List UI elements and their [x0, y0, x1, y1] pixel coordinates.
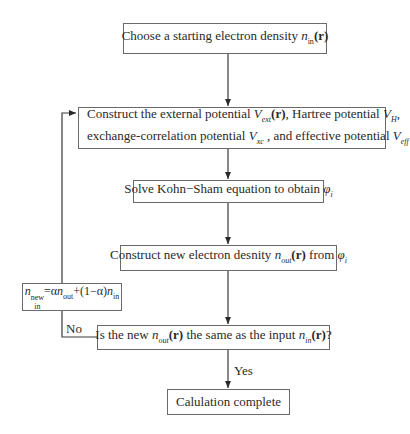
end-text: Calulation complete [176, 394, 281, 410]
start-density-box: Choose a starting electron density nin(r… [123, 23, 327, 54]
v-ext-subscript: ext [262, 115, 271, 124]
phi-subscript: i [331, 190, 333, 199]
potentials-text-2: , Hartree potential [286, 106, 383, 121]
yes-edge-label: Yes [234, 364, 253, 378]
potentials-text-1: Construct the external potential [87, 106, 254, 121]
start-text: Choose a starting electron density [122, 28, 301, 43]
solve-kohn-sham-box: Solve Kohn−Sham equation to obtain φi [133, 180, 324, 203]
flowchart-connectors [0, 0, 410, 434]
phi-subscript: i [345, 256, 347, 265]
v-h-symbol: V [383, 106, 391, 121]
convergence-decision-box: Is the new nout(r) the same as the input… [97, 325, 330, 350]
plus-term: +(1− [73, 284, 97, 298]
v-ext-arg: (r) [271, 106, 285, 121]
n-in-subscript: in [113, 292, 119, 301]
question-mark: ? [326, 327, 332, 342]
phi-symbol: φ [338, 247, 345, 262]
construct-potentials-box: Construct the external potential Vext(r)… [78, 107, 386, 149]
decision-text-1: Is the new [95, 327, 152, 342]
density-mixing-box: nnewin=αnout+(1−α)nin [22, 283, 122, 311]
equals-sign: = [44, 284, 51, 298]
no-edge-label: No [66, 322, 82, 336]
v-xc-subscript: xc [257, 137, 264, 146]
solve-text: Solve Kohn−Sham equation to obtain [124, 181, 323, 196]
potentials-text-3: exchange-correlation potential [87, 128, 249, 143]
v-eff-subscript: eff [401, 137, 409, 146]
n-in-arg: (r) [311, 327, 325, 342]
new-density-text: Construct new electron desnity [110, 247, 275, 262]
n-out-arg: (r) [169, 327, 183, 342]
n-out-subscript: out [159, 336, 169, 345]
v-ext-symbol: V [254, 106, 262, 121]
decision-text-2: the same as the input [183, 327, 299, 342]
position-arg: (r) [314, 28, 328, 43]
n-new-subscript: in [31, 302, 44, 311]
from-text: from [306, 247, 338, 262]
v-eff-symbol: V [393, 128, 401, 143]
new-density-box: Construct new electron desnity nout(r) f… [120, 245, 337, 271]
phi-symbol: φ [323, 181, 330, 196]
n-out-subscript: out [281, 256, 291, 265]
potentials-comma: , [397, 106, 400, 121]
n-new-superscript: new [31, 293, 44, 302]
potentials-text-4: , and effective potential [264, 128, 393, 143]
n-out-arg: (r) [291, 247, 305, 262]
calculation-complete-box: Calulation complete [167, 389, 290, 415]
n-out-subscript: out [63, 292, 73, 301]
v-xc-symbol: V [249, 128, 257, 143]
